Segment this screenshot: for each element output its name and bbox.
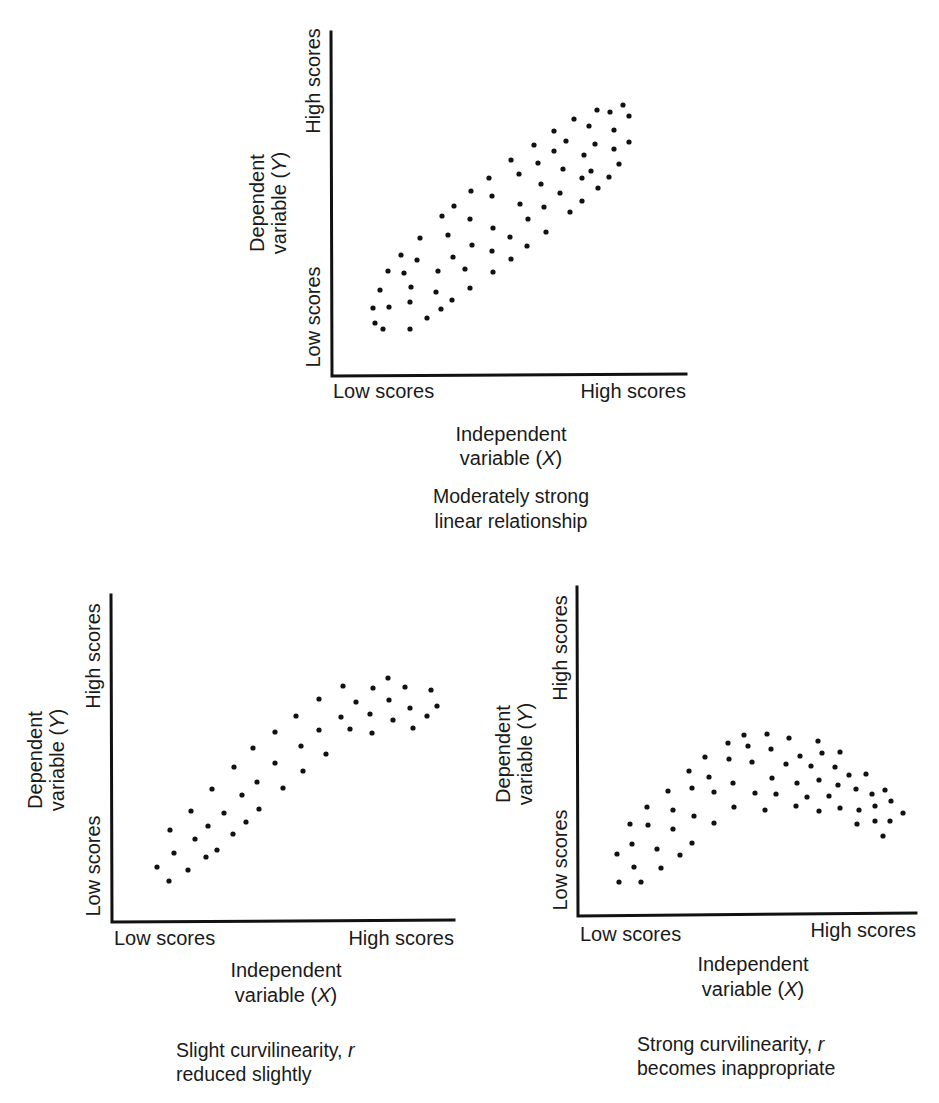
data-point	[300, 768, 305, 773]
data-point	[837, 805, 842, 810]
data-point	[230, 831, 235, 836]
data-point	[551, 128, 556, 133]
data-point	[205, 823, 210, 828]
data-point	[323, 751, 328, 756]
data-point	[581, 152, 586, 157]
data-point	[434, 703, 439, 708]
data-point	[380, 326, 385, 331]
x-axis-title-line2-bottom-left: variable (X)	[235, 984, 337, 1006]
scatter-points-bottom-left	[154, 675, 439, 883]
scatter-points-bottom-right	[614, 731, 905, 884]
x-axis-title-line2-top: variable (X)	[460, 447, 562, 469]
data-point	[560, 166, 565, 171]
data-point	[424, 713, 429, 718]
y-tick-high-top: High scores	[302, 28, 324, 134]
y-tick-high-bottom-right: High scores	[549, 595, 571, 701]
x-tick-low-bottom-left: Low scores	[114, 927, 215, 949]
data-point	[638, 879, 643, 884]
data-point	[192, 836, 197, 841]
data-point	[438, 306, 443, 311]
data-point	[794, 780, 799, 785]
data-point	[408, 284, 413, 289]
data-point	[243, 819, 248, 824]
data-point	[644, 804, 649, 809]
data-point	[209, 786, 214, 791]
data-point	[626, 113, 631, 118]
y-axis-title-line1-bottom-left: Dependent	[24, 711, 46, 809]
y-tick-low-bottom-left: Low scores	[82, 815, 104, 916]
data-point	[214, 847, 219, 852]
data-point	[541, 204, 546, 209]
data-point	[826, 793, 831, 798]
data-point	[808, 763, 813, 768]
data-point	[654, 846, 659, 851]
caption-line2-top: linear relationship	[435, 510, 588, 532]
data-point	[390, 717, 395, 722]
data-point	[631, 864, 636, 869]
panel-top: High scores Low scores Dependent variabl…	[246, 28, 686, 532]
data-point	[627, 821, 632, 826]
data-point	[369, 730, 374, 735]
y-axis-title-line2-bottom-right: variable (Y)	[514, 703, 536, 805]
data-point	[445, 232, 450, 237]
data-point	[768, 746, 773, 751]
data-point	[535, 160, 540, 165]
data-point	[616, 879, 621, 884]
data-point	[689, 840, 694, 845]
data-point	[347, 726, 352, 731]
y-axis-title-line1-top: Dependent	[246, 154, 268, 252]
data-point	[880, 833, 885, 838]
caption-line1-bottom-left: Slight curvilinearity, r	[176, 1039, 356, 1061]
data-point	[386, 697, 391, 702]
data-point	[293, 713, 298, 718]
data-point	[658, 865, 663, 870]
data-point	[670, 807, 675, 812]
data-point	[167, 827, 172, 832]
data-point	[462, 266, 467, 271]
data-point	[298, 743, 303, 748]
data-point	[837, 749, 842, 754]
data-point	[853, 786, 858, 791]
data-point	[508, 256, 513, 261]
x-tick-high-bottom-right: High scores	[810, 919, 916, 941]
x-axis-title-line1-top: Independent	[455, 423, 567, 445]
data-point	[407, 326, 412, 331]
data-point	[171, 850, 176, 855]
data-point	[762, 807, 767, 812]
data-point	[467, 285, 472, 290]
data-point	[882, 787, 887, 792]
data-point	[531, 142, 536, 147]
data-point	[414, 257, 419, 262]
data-point	[372, 320, 377, 325]
data-point	[611, 127, 616, 132]
data-point	[407, 705, 412, 710]
data-point	[702, 754, 707, 759]
data-point	[543, 229, 548, 234]
x-axis-title-line1-bottom-left: Independent	[230, 959, 342, 981]
data-point	[489, 248, 494, 253]
data-point	[626, 139, 631, 144]
data-point	[340, 683, 345, 688]
data-point	[507, 234, 512, 239]
data-point	[804, 794, 809, 799]
panel-bottom-left: High scores Low scores Dependent variabl…	[24, 595, 454, 1085]
data-point	[490, 269, 495, 274]
data-point	[385, 675, 390, 680]
y-tick-low-bottom-right: Low scores	[549, 809, 571, 910]
data-point	[401, 270, 406, 275]
data-point	[752, 790, 757, 795]
data-point	[741, 732, 746, 737]
data-point	[595, 185, 600, 190]
data-point	[272, 729, 277, 734]
caption-line1-bottom-right: Strong curvilinearity, r	[637, 1033, 826, 1055]
x-tick-low-bottom-right: Low scores	[580, 923, 681, 945]
data-point	[407, 299, 412, 304]
data-point	[221, 810, 226, 815]
panel-bottom-right: High scores Low scores Dependent variabl…	[492, 587, 916, 1079]
data-point	[686, 768, 691, 773]
data-point	[607, 109, 612, 114]
data-point	[579, 175, 584, 180]
data-point	[451, 203, 456, 208]
data-point	[370, 685, 375, 690]
data-point	[486, 175, 491, 180]
